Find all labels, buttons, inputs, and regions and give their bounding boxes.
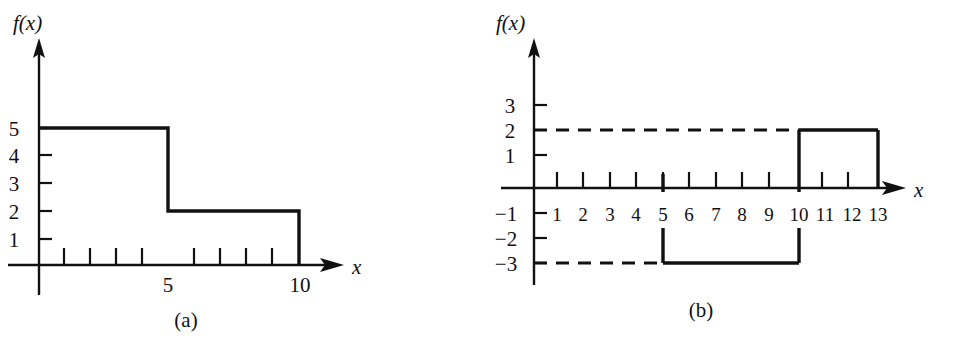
panel-a-x-axis <box>8 258 344 272</box>
panel-b-x-ticks <box>557 172 848 188</box>
panel-b-y-tick-label-3: 3 <box>505 94 516 118</box>
panel-a-x-tick-label-10: 10 <box>290 273 311 297</box>
panel-b: f(x) x 3 2 1 <box>477 0 954 338</box>
panel-b-y-tick-label-1: 1 <box>505 144 516 168</box>
panel-b-y-tick-label-neg2: −2 <box>495 227 517 251</box>
panel-b-x-tick-label-12: 12 <box>843 204 862 225</box>
panel-a-y-tick-label-1: 1 <box>9 228 20 252</box>
panel-b-x-tick-label-10: 10 <box>790 204 809 225</box>
panel-b-caption: (b) <box>689 298 714 322</box>
panel-b-x-tick-label-1: 1 <box>552 204 562 225</box>
panel-a-y-tick-label-3: 3 <box>9 172 20 196</box>
panel-a-y-tick-label-5: 5 <box>9 117 20 141</box>
panel-b-x-tick-label-7: 7 <box>711 204 721 225</box>
figure-sheet: f(x) x 5 4 3 2 <box>0 0 954 338</box>
panel-b-y-axis <box>528 38 540 285</box>
panel-b-y-tick-label-neg1: −1 <box>495 202 517 226</box>
panel-b-y-tick-label-neg3: −3 <box>495 252 517 276</box>
panel-a-y-tick-label-2: 2 <box>9 200 20 224</box>
panel-a-y-tick-label-4: 4 <box>9 144 20 168</box>
panel-b-x-tick-label-9: 9 <box>764 204 774 225</box>
panel-a-x-axis-label: x <box>351 255 362 279</box>
panel-b-y-axis-label: f(x) <box>496 11 525 35</box>
panel-b-x-tick-label-5: 5 <box>658 204 668 225</box>
panel-b-x-tick-label-8: 8 <box>737 204 747 225</box>
panel-a: f(x) x 5 4 3 2 <box>0 0 477 338</box>
panel-a-x-ticks <box>64 248 272 265</box>
panel-a-y-ticks <box>39 155 52 239</box>
panel-b-x-tick-label-13: 13 <box>869 204 888 225</box>
panel-a-x-tick-label-5: 5 <box>163 273 174 297</box>
panel-b-x-axis <box>501 181 906 195</box>
panel-b-x-tick-label-4: 4 <box>631 204 641 225</box>
panel-b-x-tick-label-3: 3 <box>605 204 615 225</box>
panel-b-step-function-curve <box>663 130 878 263</box>
panel-b-x-tick-label-6: 6 <box>684 204 694 225</box>
panel-b-x-tick-label-11: 11 <box>816 204 834 225</box>
panel-a-step-function-curve <box>39 128 299 265</box>
panel-b-x-tick-label-2: 2 <box>578 204 588 225</box>
panel-a-y-axis <box>33 38 45 295</box>
panel-a-y-axis-label: f(x) <box>13 11 42 35</box>
panel-a-caption: (a) <box>174 308 197 332</box>
panel-b-y-tick-label-2: 2 <box>505 119 516 143</box>
panel-b-x-axis-label: x <box>913 178 924 202</box>
